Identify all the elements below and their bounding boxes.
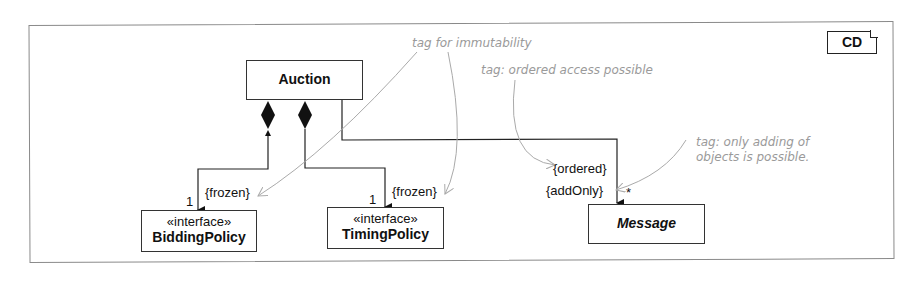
class-bidding-policy[interactable]: «interface» BiddingPolicy [141, 210, 257, 252]
constraint-ordered: {ordered} [553, 161, 607, 176]
note-ordered: tag: ordered access possible [481, 63, 653, 78]
class-timing-policy[interactable]: «interface» TimingPolicy [327, 207, 444, 249]
note-addonly: tag: only adding of objects is possible. [696, 135, 809, 165]
class-auction[interactable]: Auction [246, 60, 363, 100]
class-name: BiddingPolicy [142, 229, 256, 246]
class-name: Auction [247, 61, 362, 97]
class-name: TimingPolicy [328, 226, 443, 243]
class-stereotype: «interface» [328, 211, 443, 226]
note-immutability: tag for immutability [412, 36, 532, 51]
multiplicity-timing: 1 [369, 192, 376, 207]
constraint-addonly: {addOnly} [546, 183, 603, 198]
multiplicity-message: * [626, 185, 631, 200]
constraint-bidding: {frozen} [205, 185, 250, 200]
multiplicity-bidding: 1 [186, 194, 193, 209]
class-name: Message [589, 205, 704, 241]
class-stereotype: «interface» [142, 214, 256, 229]
note-addonly-line-1: tag: only adding of [696, 135, 809, 150]
class-message[interactable]: Message [588, 204, 705, 244]
note-addonly-line-2: objects is possible. [696, 150, 809, 165]
constraint-timing: {frozen} [392, 184, 437, 199]
